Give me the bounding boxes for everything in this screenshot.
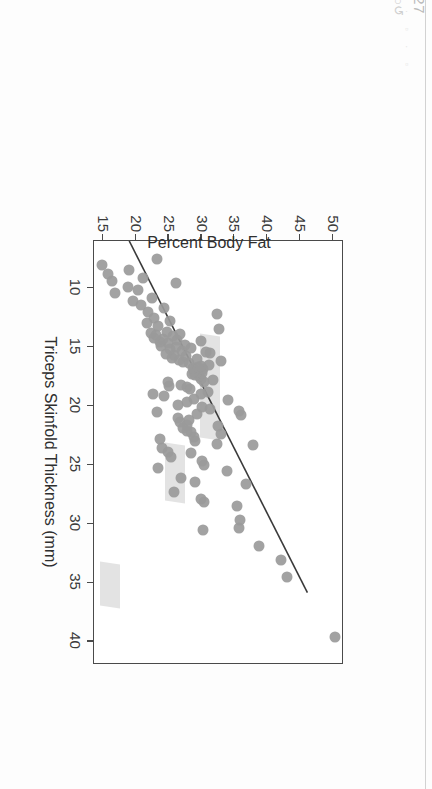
data-point bbox=[148, 389, 159, 400]
data-point bbox=[176, 379, 187, 390]
data-point bbox=[159, 391, 170, 402]
x-axis-title: Triceps Skinfold Thickness (mm) bbox=[41, 240, 59, 664]
x-tick-label: 20 bbox=[67, 397, 84, 414]
data-point bbox=[146, 292, 157, 303]
x-tick-label: 35 bbox=[67, 573, 84, 590]
y-axis-title: Percent Body Fat bbox=[84, 234, 334, 252]
data-point bbox=[195, 493, 206, 504]
y-tick-label: 25 bbox=[160, 200, 177, 232]
data-point bbox=[222, 395, 233, 406]
x-tick-mark bbox=[87, 287, 93, 288]
y-tick-label: 35 bbox=[226, 200, 243, 232]
data-point bbox=[235, 515, 246, 526]
data-point bbox=[208, 374, 219, 385]
data-point bbox=[231, 501, 242, 512]
data-point bbox=[138, 272, 149, 283]
document-page: 5/27 ↻○↺ ▫ · ▫ · ▫ · ▫ · ▫ 1015202530354… bbox=[0, 0, 432, 789]
data-point bbox=[155, 433, 166, 444]
data-point bbox=[240, 478, 251, 489]
data-point bbox=[276, 555, 287, 566]
y-tick-label: 20 bbox=[127, 200, 144, 232]
data-point bbox=[198, 524, 209, 535]
x-tick-label: 25 bbox=[67, 455, 84, 472]
y-tick-label: 45 bbox=[292, 200, 309, 232]
data-point bbox=[133, 285, 144, 296]
x-tick-mark bbox=[87, 405, 93, 406]
data-point bbox=[164, 316, 175, 327]
data-point bbox=[201, 346, 212, 357]
data-point bbox=[186, 448, 197, 459]
data-point bbox=[152, 253, 163, 264]
data-point bbox=[329, 631, 340, 642]
data-point bbox=[212, 438, 223, 449]
data-point bbox=[124, 265, 135, 276]
highlight-band bbox=[99, 561, 119, 608]
data-point bbox=[190, 477, 201, 488]
plot-area bbox=[93, 240, 343, 664]
x-tick-mark bbox=[87, 523, 93, 524]
x-tick-label: 30 bbox=[67, 514, 84, 531]
scatter-plot-figure: 10152025303540 1520253035404550 Triceps … bbox=[25, 178, 355, 698]
data-point bbox=[175, 329, 186, 340]
data-point bbox=[213, 324, 224, 335]
y-tick-label: 50 bbox=[325, 200, 342, 232]
x-tick-label: 10 bbox=[67, 279, 84, 296]
data-point bbox=[176, 472, 187, 483]
x-tick-label: 15 bbox=[67, 338, 84, 355]
data-point bbox=[169, 486, 180, 497]
data-point bbox=[212, 309, 223, 320]
x-tick-label: 40 bbox=[67, 632, 84, 649]
x-tick-mark bbox=[87, 582, 93, 583]
data-point bbox=[110, 287, 121, 298]
x-tick-mark bbox=[87, 346, 93, 347]
data-point bbox=[221, 465, 232, 476]
data-point bbox=[248, 439, 259, 450]
data-point bbox=[158, 303, 169, 314]
data-point bbox=[254, 541, 265, 552]
y-tick-label: 40 bbox=[259, 200, 276, 232]
data-point bbox=[162, 377, 173, 388]
data-point bbox=[152, 463, 163, 474]
y-tick-label: 30 bbox=[193, 200, 210, 232]
data-point bbox=[215, 356, 226, 367]
data-point bbox=[196, 336, 207, 347]
x-tick-mark bbox=[87, 464, 93, 465]
data-point bbox=[152, 406, 163, 417]
data-point bbox=[282, 571, 293, 582]
data-point bbox=[102, 268, 113, 279]
page-edge-divider bbox=[425, 0, 426, 789]
data-point bbox=[204, 359, 215, 370]
data-point bbox=[122, 281, 133, 292]
figure-rotation-wrapper: 10152025303540 1520253035404550 Triceps … bbox=[25, 178, 355, 698]
data-point bbox=[171, 278, 182, 289]
data-point bbox=[233, 405, 244, 416]
data-point bbox=[172, 412, 183, 423]
x-tick-mark bbox=[87, 640, 93, 641]
toolbar-ghost-icons[interactable]: ▫ · ▫ · ▫ · ▫ · ▫ bbox=[402, 0, 412, 72]
data-point bbox=[203, 386, 214, 397]
data-point bbox=[196, 402, 207, 413]
data-point bbox=[128, 296, 139, 307]
y-tick-label: 15 bbox=[94, 200, 111, 232]
data-point bbox=[96, 259, 107, 270]
data-point bbox=[157, 443, 168, 454]
data-point bbox=[196, 456, 207, 467]
data-point bbox=[213, 420, 224, 431]
